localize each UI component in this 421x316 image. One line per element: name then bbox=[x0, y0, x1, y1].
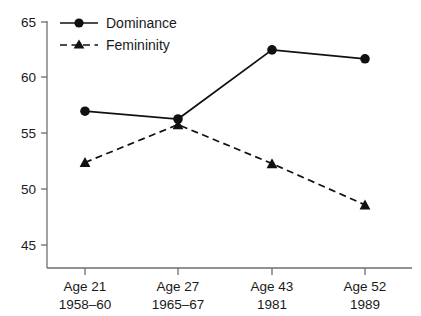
x-tick-label-3-years: 1989 bbox=[350, 297, 380, 312]
series-line-femininity bbox=[85, 125, 365, 205]
x-tick-label-0-age: Age 21 bbox=[64, 279, 107, 294]
y-tick-label-60: 60 bbox=[21, 70, 36, 85]
chart-container: 65 60 55 50 45 Age 21 1958–60 Age 27 196… bbox=[0, 0, 421, 316]
legend-label-dominance: Dominance bbox=[106, 15, 177, 31]
x-tick-label-1-age: Age 27 bbox=[157, 279, 200, 294]
x-tick-label-2-age: Age 43 bbox=[251, 279, 294, 294]
data-point-femininity-3 bbox=[360, 199, 371, 209]
y-axis-ticks bbox=[41, 22, 47, 245]
data-point-dominance-2 bbox=[267, 45, 277, 55]
chart-legend: Dominance Femininity bbox=[60, 15, 177, 53]
data-point-femininity-0 bbox=[80, 157, 91, 167]
legend-marker-dominance bbox=[74, 18, 83, 27]
line-chart: 65 60 55 50 45 Age 21 1958–60 Age 27 196… bbox=[0, 0, 421, 316]
legend-label-femininity: Femininity bbox=[106, 37, 170, 53]
series-layer bbox=[80, 45, 371, 209]
y-tick-label-50: 50 bbox=[21, 182, 36, 197]
y-tick-label-55: 55 bbox=[21, 126, 36, 141]
data-point-dominance-0 bbox=[80, 106, 90, 116]
legend-marker-femininity bbox=[74, 40, 85, 49]
y-axis-labels: 65 60 55 50 45 bbox=[21, 15, 36, 253]
x-tick-label-1-years: 1965–67 bbox=[152, 297, 205, 312]
x-tick-label-0-years: 1958–60 bbox=[59, 297, 112, 312]
series-line-dominance bbox=[85, 50, 365, 119]
data-point-dominance-3 bbox=[360, 54, 370, 64]
x-tick-label-2-years: 1981 bbox=[257, 297, 287, 312]
y-tick-label-45: 45 bbox=[21, 238, 36, 253]
y-tick-label-65: 65 bbox=[21, 15, 36, 30]
x-axis-labels: Age 21 1958–60 Age 27 1965–67 Age 43 198… bbox=[59, 279, 387, 312]
data-point-femininity-2 bbox=[267, 158, 278, 168]
x-axis-ticks bbox=[85, 268, 365, 275]
x-tick-label-3-age: Age 52 bbox=[344, 279, 387, 294]
